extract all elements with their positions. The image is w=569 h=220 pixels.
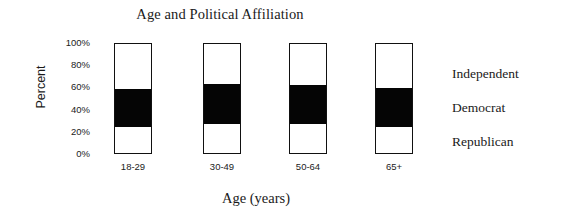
legend-entry-republican[interactable]: Republican <box>452 135 567 149</box>
bar-segment-democrat[interactable] <box>290 85 326 123</box>
bar-group[interactable]: 30-49 <box>203 43 241 154</box>
y-axis-tick-labels: 0%20%40%60%80%100% <box>52 43 90 154</box>
stacked-bar[interactable] <box>289 43 327 154</box>
bar-segment-democrat[interactable] <box>376 88 412 127</box>
stacked-bar[interactable] <box>114 43 152 154</box>
legend-entry-democrat[interactable]: Democrat <box>452 101 567 115</box>
bar-segment-democrat[interactable] <box>204 84 240 123</box>
bar-group[interactable]: 18-29 <box>114 43 152 154</box>
chart-container: Age and Political Affiliation Percent 0%… <box>0 0 569 220</box>
y-axis-tick-label: 100% <box>52 38 90 48</box>
y-axis-title: Percent <box>34 52 48 122</box>
bar-group[interactable]: 65+ <box>375 43 413 154</box>
y-axis-tick-label: 40% <box>52 105 90 115</box>
x-axis-title: Age (years) <box>96 190 416 207</box>
bar-segment-republican[interactable] <box>290 124 326 153</box>
bar-group[interactable]: 50-64 <box>289 43 327 154</box>
bar-segment-independent[interactable] <box>290 44 326 85</box>
bar-segment-independent[interactable] <box>204 44 240 84</box>
chart-title: Age and Political Affiliation <box>0 6 440 23</box>
bar-segment-independent[interactable] <box>376 44 412 88</box>
y-axis-tick-label: 60% <box>52 82 90 92</box>
chart-legend: IndependentDemocratRepublican <box>452 43 567 154</box>
legend-entry-independent[interactable]: Independent <box>452 67 567 81</box>
bar-segment-republican[interactable] <box>204 124 240 153</box>
y-axis-tick-label: 20% <box>52 127 90 137</box>
x-axis-category-label: 30-49 <box>189 161 255 172</box>
bar-segment-independent[interactable] <box>115 44 151 89</box>
stacked-bar[interactable] <box>203 43 241 154</box>
stacked-bar[interactable] <box>375 43 413 154</box>
y-axis-tick-label: 80% <box>52 60 90 70</box>
x-axis-category-label: 18-29 <box>100 161 166 172</box>
bar-segment-democrat[interactable] <box>115 89 151 127</box>
x-axis-category-label: 50-64 <box>275 161 341 172</box>
y-axis-tick-label: 0% <box>52 149 90 159</box>
plot-area: 18-2930-4950-6465+ <box>96 43 416 154</box>
x-axis-category-label: 65+ <box>361 161 427 172</box>
bar-segment-republican[interactable] <box>376 127 412 153</box>
bar-segment-republican[interactable] <box>115 127 151 153</box>
